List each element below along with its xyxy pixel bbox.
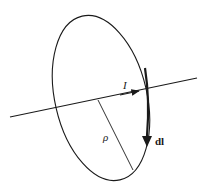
current-label: I [122, 79, 128, 91]
line-element-label: dl [155, 135, 164, 147]
line-element-arrowhead [142, 136, 152, 147]
line-element-arc [145, 68, 148, 136]
radius-label: ρ [102, 131, 108, 143]
ampere-loop-diagram: I ρ dl [0, 0, 210, 192]
